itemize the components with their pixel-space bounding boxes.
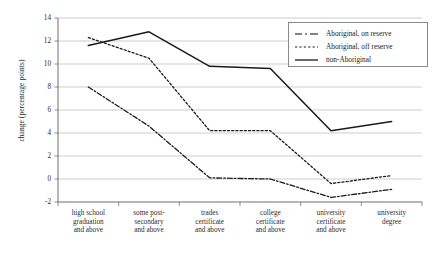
y-axis-tick-label: 6 bbox=[29, 106, 51, 114]
legend-key-solid-icon bbox=[294, 55, 321, 65]
legend-item: Aboriginal, off reserve bbox=[294, 40, 422, 53]
x-axis-tick-label-line: certificate bbox=[179, 218, 240, 227]
legend-item: non-Aboriginal bbox=[294, 53, 422, 66]
x-axis-tick-label: collegecertificateand above bbox=[240, 209, 301, 235]
x-axis-tick-label-line: and above bbox=[301, 226, 362, 235]
y-axis-tick-label: 4 bbox=[29, 129, 51, 137]
legend-item: Aboriginal, on reserve bbox=[294, 27, 422, 40]
x-axis-tick-label-line: and above bbox=[179, 226, 240, 235]
legend-label-on-reserve: Aboriginal, on reserve bbox=[326, 29, 391, 38]
x-axis-tick-label: high schoolgraduationand above bbox=[58, 209, 119, 235]
y-axis-tick-label: 8 bbox=[29, 83, 51, 91]
legend-key-dotted-icon bbox=[294, 42, 321, 52]
x-axis-tick-label-line: and above bbox=[119, 226, 180, 235]
y-axis-tick-label: 12 bbox=[29, 37, 51, 45]
legend-label-non-aboriginal: non-Aboriginal bbox=[326, 55, 371, 64]
x-axis-tick-label-line: graduation bbox=[58, 218, 119, 227]
y-axis-tick-label: -2 bbox=[29, 198, 51, 206]
x-axis-tick-label-line: high school bbox=[58, 209, 119, 218]
x-axis-tick-label-line: college bbox=[240, 209, 301, 218]
x-axis-tick-label: some post-secondaryand above bbox=[119, 209, 180, 235]
x-axis-tick-label-line: degree bbox=[361, 218, 422, 227]
x-axis-tick-label: tradescertificateand above bbox=[179, 209, 240, 235]
x-axis-tick-label-line: some post- bbox=[119, 209, 180, 218]
x-axis-tick-label-line: and above bbox=[58, 226, 119, 235]
y-axis-title: change (percentage points) bbox=[17, 36, 26, 166]
x-axis-tick-label-line: and above bbox=[240, 226, 301, 235]
legend-label-off-reserve: Aboriginal, off reserve bbox=[326, 42, 393, 51]
x-axis-tick-label: universitycertificateand above bbox=[301, 209, 362, 235]
x-axis-tick-label-line: secondary bbox=[119, 218, 180, 227]
x-axis-tick-label: universitydegree bbox=[361, 209, 422, 226]
x-axis-tick-label-line: certificate bbox=[240, 218, 301, 227]
x-axis-tick-label-line: certificate bbox=[301, 218, 362, 227]
x-axis-tick-label-line: university bbox=[301, 209, 362, 218]
chart-legend: Aboriginal, on reserve Aboriginal, off r… bbox=[288, 22, 428, 67]
y-axis-tick-label: 2 bbox=[29, 152, 51, 160]
legend-key-dash-dot-icon bbox=[294, 29, 321, 39]
x-axis-tick-label-line: trades bbox=[179, 209, 240, 218]
y-axis-tick-label: 0 bbox=[29, 175, 51, 183]
x-axis-tick-label-line: university bbox=[361, 209, 422, 218]
chart-container: change (percentage points) 14121086420-2… bbox=[0, 0, 437, 255]
y-axis-tick-label: 14 bbox=[29, 14, 51, 22]
series-line-aboriginal-on-reserve bbox=[88, 87, 391, 197]
y-axis-tick-label: 10 bbox=[29, 60, 51, 68]
